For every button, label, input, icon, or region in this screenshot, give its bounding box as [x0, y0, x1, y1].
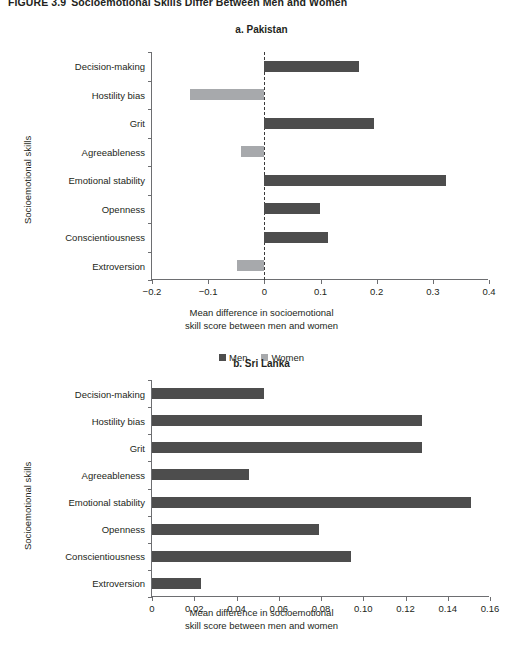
bar-openness [152, 524, 319, 535]
bar-hostility-bias [190, 89, 264, 100]
y-tick [148, 570, 152, 571]
category-label: Agreeableness [0, 146, 145, 157]
x-tick [237, 597, 238, 601]
bar-agreeableness [152, 469, 249, 480]
y-tick [148, 516, 152, 517]
chart-panel-pakistan: a. Pakistan Socioemotional skills −0.2−0… [0, 24, 523, 344]
x-tick-label: 0.1 [314, 286, 327, 297]
category-label: Conscientiousness [0, 232, 145, 243]
category-label: Emotional stability [0, 497, 145, 508]
x-axis-title-b: Mean difference in socioemotional skill … [0, 607, 523, 632]
y-tick [148, 489, 152, 490]
x-axis-title-a-line1: Mean difference in socioemotional [0, 307, 523, 320]
category-label: Openness [0, 203, 145, 214]
x-tick-label: −0.2 [143, 286, 162, 297]
zero-reference-line [264, 52, 265, 280]
category-label: Extroversion [0, 578, 145, 589]
category-label: Openness [0, 524, 145, 535]
category-label: Grit [0, 118, 145, 129]
chart-panel-sri-lanka: b. Sri Lanka Socioemotional skills 00.02… [0, 358, 523, 658]
bar-extroversion [237, 260, 264, 271]
bar-extroversion [152, 578, 201, 589]
plot-area-pakistan: −0.2−0.100.10.20.30.4 [151, 52, 488, 280]
bar-conscientiousness [152, 551, 351, 562]
x-tick [448, 597, 449, 601]
panel-a-title: a. Pakistan [0, 24, 523, 35]
x-tick [264, 280, 265, 284]
y-tick [148, 195, 152, 196]
y-tick [148, 280, 152, 281]
figure-title: FIGURE 3.9Socioemotional Skills Differ B… [8, 0, 347, 8]
y-tick [148, 434, 152, 435]
figure-number: FIGURE 3.9 [8, 0, 66, 8]
x-tick-label: 0 [262, 286, 267, 297]
x-axis-a: −0.2−0.100.10.20.30.4 [152, 279, 488, 280]
x-tick [489, 280, 490, 284]
bar-conscientiousness [264, 232, 327, 243]
bar-emotional-stability [264, 175, 445, 186]
category-label: Grit [0, 442, 145, 453]
category-label: Hostility bias [0, 89, 145, 100]
category-label: Extroversion [0, 260, 145, 271]
x-tick [321, 597, 322, 601]
category-label: Hostility bias [0, 415, 145, 426]
x-tick [152, 280, 153, 284]
category-label: Agreeableness [0, 469, 145, 480]
bar-emotional-stability [152, 497, 471, 508]
y-tick [148, 52, 152, 53]
bar-agreeableness [241, 146, 264, 157]
y-tick [148, 81, 152, 82]
y-tick [148, 380, 152, 381]
x-tick [490, 597, 491, 601]
x-tick [377, 280, 378, 284]
bar-hostility-bias [152, 415, 422, 426]
x-axis-title-a-line2: skill score between men and women [0, 320, 523, 333]
y-tick [148, 109, 152, 110]
category-label: Decision-making [0, 61, 145, 72]
y-tick [148, 461, 152, 462]
bar-openness [264, 203, 320, 214]
panel-b-title: b. Sri Lanka [0, 358, 523, 369]
x-tick [433, 280, 434, 284]
category-label: Emotional stability [0, 175, 145, 186]
x-tick-label: 0.4 [482, 286, 495, 297]
x-tick-label: −0.1 [199, 286, 218, 297]
x-axis-b: 00.020.040.060.080.100.120.140.16 [152, 596, 489, 597]
bar-grit [152, 442, 422, 453]
bar-decision-making [264, 61, 358, 72]
x-tick-label: 0.3 [426, 286, 439, 297]
y-tick [148, 252, 152, 253]
y-tick [148, 223, 152, 224]
x-tick [363, 597, 364, 601]
x-tick [152, 597, 153, 601]
x-tick [406, 597, 407, 601]
category-label: Decision-making [0, 388, 145, 399]
x-axis-title-b-line2: skill score between men and women [0, 620, 523, 633]
x-tick-label: 0.2 [370, 286, 383, 297]
x-axis-title-a: Mean difference in socioemotional skill … [0, 307, 523, 332]
y-tick [148, 138, 152, 139]
plot-area-sri-lanka: 00.020.040.060.080.100.120.140.16 [151, 380, 489, 597]
y-tick [148, 543, 152, 544]
x-axis-title-b-line1: Mean difference in socioemotional [0, 607, 523, 620]
bar-grit [264, 118, 374, 129]
y-tick [148, 597, 152, 598]
y-tick [148, 166, 152, 167]
y-tick [148, 407, 152, 408]
x-tick [279, 597, 280, 601]
figure-caption: Socioemotional Skills Differ Between Men… [71, 0, 347, 8]
x-tick [194, 597, 195, 601]
bar-decision-making [152, 388, 264, 399]
category-label: Conscientiousness [0, 551, 145, 562]
x-tick [321, 280, 322, 284]
x-tick [208, 280, 209, 284]
